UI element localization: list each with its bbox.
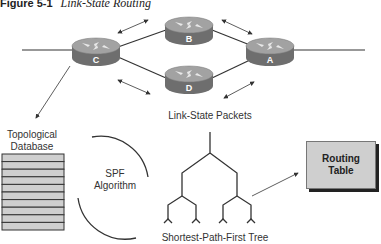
spf-tree-label: Shortest-Path-First Tree <box>150 232 280 244</box>
topological-database-line1: Topological <box>0 129 64 141</box>
spf-tree <box>164 132 255 223</box>
router-d-label: D <box>186 83 193 93</box>
database-row <box>2 177 64 185</box>
spf-line1: SPF <box>80 168 150 180</box>
database-row <box>2 154 64 162</box>
topological-database-label: Topological Database <box>0 129 64 153</box>
database-row <box>2 169 64 177</box>
router-a-label: A <box>267 55 274 65</box>
database-row <box>2 192 64 200</box>
link-c-d <box>118 57 166 78</box>
link-d-a <box>212 60 250 78</box>
spf-algorithm-label: SPF Algorithm <box>80 168 150 192</box>
database-row <box>2 162 64 170</box>
topological-database-line2: Database <box>0 141 64 153</box>
database-row <box>2 215 64 223</box>
database-row <box>2 200 64 208</box>
spf-arc-bottom <box>78 198 136 239</box>
link-state-packets-label: Link-State Packets <box>150 110 270 122</box>
router-b-label: B <box>186 34 193 44</box>
routing-table-line1: Routing <box>322 153 360 165</box>
link-b-a <box>212 30 250 45</box>
database-row <box>2 184 64 192</box>
routing-table-line2: Table <box>322 165 360 177</box>
link-c-b <box>118 30 166 47</box>
arrow-c-to-database <box>36 66 70 118</box>
packet-arrow-c-d <box>118 80 150 94</box>
database-row <box>2 207 64 215</box>
database-row <box>2 222 64 230</box>
packet-arrow-b-a <box>222 20 252 34</box>
router-c-label: C <box>93 55 100 65</box>
packet-arrow-c-b <box>118 20 148 33</box>
spf-line2: Algorithm <box>80 180 150 192</box>
routing-table-box: Routing Table <box>306 141 376 189</box>
packet-arrow-d-a <box>224 82 254 98</box>
arrow-tree-to-routing-table <box>252 173 298 196</box>
topological-database <box>2 154 64 230</box>
